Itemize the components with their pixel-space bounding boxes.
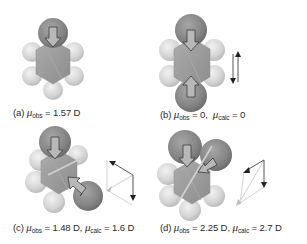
vector-diagram-c xyxy=(106,160,136,205)
caption-c: (c) μobs = 1.48 D, μcalc = 1.6 D xyxy=(13,221,134,234)
figure-canvas xyxy=(0,0,307,244)
molecule-c-m-dichlorobenzene xyxy=(25,126,103,213)
molecule-b-p-dichlorobenzene xyxy=(159,14,225,112)
caption-d: (d) μobs = 2.25 D, μcalc = 2.7 D xyxy=(160,221,282,234)
caption-a: (a) μobs = 1.57 D xyxy=(13,106,80,119)
molecule-d-o-dichlorobenzene xyxy=(157,130,232,221)
vector-diagram-b xyxy=(230,51,241,84)
molecule-a-chlorobenzene xyxy=(22,18,84,100)
caption-b: (b) μobs = 0, μcalc = 0 xyxy=(160,108,245,121)
vector-diagram-d xyxy=(236,160,267,206)
